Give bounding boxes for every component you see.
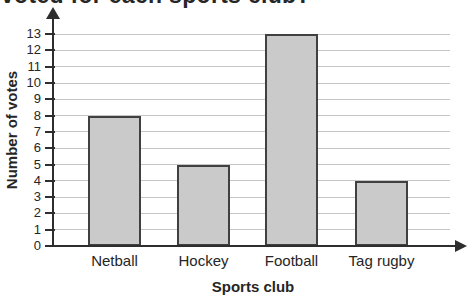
y-tick-label: 9 xyxy=(16,91,41,107)
bar-chart-figure: voted for each sports club? 012345678910… xyxy=(0,0,470,297)
y-tick-label: 1 xyxy=(16,222,41,238)
gridline xyxy=(55,66,450,67)
y-tick-label: 2 xyxy=(16,205,41,221)
y-tick-label: 10 xyxy=(16,75,41,91)
y-tick-label: 3 xyxy=(16,189,41,205)
gridline xyxy=(55,99,450,100)
x-axis-arrow-icon xyxy=(455,240,467,252)
y-tick-label: 8 xyxy=(16,108,41,124)
bar-tag-rugby xyxy=(355,181,408,246)
gridline xyxy=(55,34,450,35)
bar-netball xyxy=(88,116,141,246)
gridline xyxy=(55,83,450,84)
y-tick-label: 11 xyxy=(16,59,41,75)
gridline xyxy=(55,50,450,51)
x-category-label: Tag rugby xyxy=(322,252,442,269)
x-axis-title: Sports club xyxy=(153,278,353,295)
x-axis-line xyxy=(52,245,456,247)
y-tick-label: 12 xyxy=(16,42,41,58)
bar-football xyxy=(265,34,318,246)
y-tick-label: 7 xyxy=(16,124,41,140)
bar-hockey xyxy=(177,165,230,247)
y-tick-label: 5 xyxy=(16,157,41,173)
plot-area: 012345678910111213 NetballHockeyFootball… xyxy=(0,0,470,297)
y-tick-label: 0 xyxy=(16,238,41,254)
y-axis-arrow-icon xyxy=(46,7,60,19)
y-axis-line xyxy=(52,16,54,247)
y-tick-label: 6 xyxy=(16,140,41,156)
y-tick-label: 13 xyxy=(16,26,41,42)
y-tick-label: 4 xyxy=(16,173,41,189)
